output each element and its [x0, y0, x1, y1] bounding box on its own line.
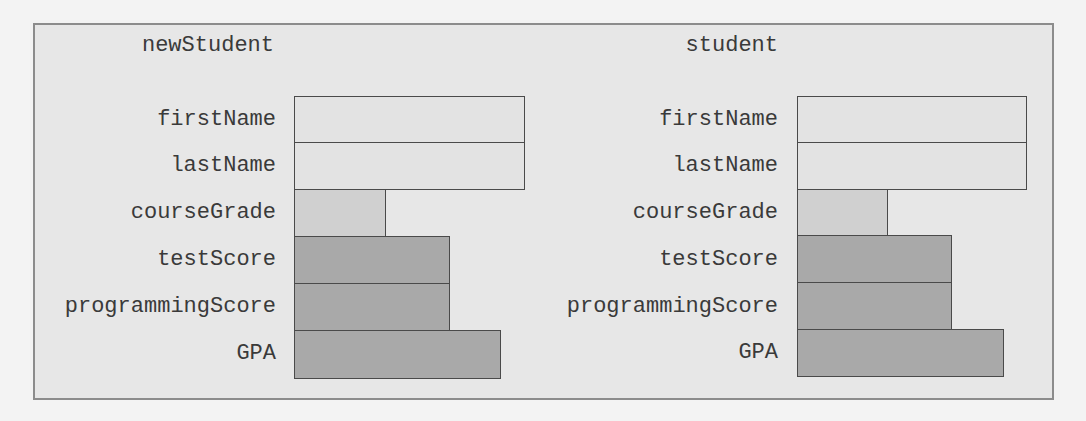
struct-title: student [686, 33, 778, 59]
field-label-GPA: GPA [738, 329, 778, 376]
field-label-programmingScore: programmingScore [567, 283, 778, 330]
field-cell-GPA [797, 329, 1004, 377]
field-label-testScore: testScore [659, 236, 778, 283]
field-label-firstName: firstName [659, 96, 778, 143]
field-cell-firstName [797, 96, 1027, 144]
field-cell-lastName [797, 142, 1027, 190]
field-label-courseGrade: courseGrade [633, 189, 778, 236]
field-label-lastName: lastName [672, 142, 778, 189]
field-cell-courseGrade [797, 189, 888, 236]
field-cell-testScore [797, 235, 952, 283]
struct-student: student firstName lastName courseGrade t… [0, 0, 1086, 421]
field-cell-programmingScore [797, 282, 952, 330]
